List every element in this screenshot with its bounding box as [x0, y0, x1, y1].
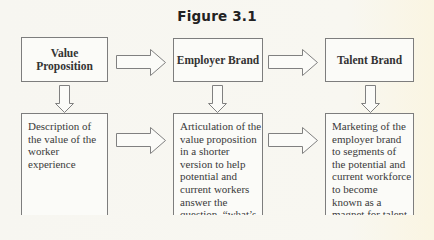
description-line: potential and [180, 170, 257, 183]
description-line: version to help [180, 158, 257, 171]
description-line: question, “what’s [180, 208, 257, 215]
description-line: the potential and [332, 158, 408, 171]
description-line: the value of the [28, 133, 102, 146]
right-arrow-icon [116, 49, 166, 76]
talent-brand-box: Talent Brand [325, 38, 414, 82]
talent-brand-description-box: Marketing of the employer brand to segme… [325, 113, 414, 215]
description-line: in a shorter [180, 145, 257, 158]
description-line: value proposition [180, 133, 257, 146]
value-proposition-box: Value Proposition [21, 37, 108, 82]
employer-brand-box: Employer Brand [173, 38, 263, 82]
description-line: to segments of [332, 145, 408, 158]
description-line: experience [28, 158, 102, 171]
value-proposition-description-box: Description of the value of the worker e… [21, 113, 108, 215]
description-line: known as a [332, 196, 408, 209]
description-line: answer the [180, 196, 257, 209]
right-arrow-icon [268, 127, 318, 154]
right-arrow-icon [268, 49, 318, 76]
down-arrow-icon [55, 85, 74, 113]
description-line: employer brand [332, 133, 408, 146]
description-line: Articulation of the [180, 120, 257, 133]
figure-title: Figure 3.1 [0, 8, 434, 24]
description-line: magnet for talent [332, 208, 408, 215]
description-line: current workers [180, 183, 257, 196]
down-arrow-icon [361, 85, 380, 113]
value-proposition-heading-line-2: Proposition [36, 60, 93, 73]
down-arrow-icon [208, 85, 227, 113]
description-line: to become [332, 183, 408, 196]
employer-brand-heading: Employer Brand [177, 54, 260, 67]
description-line: Marketing of the [332, 120, 408, 133]
description-line: worker [28, 145, 102, 158]
talent-brand-heading: Talent Brand [337, 54, 402, 67]
value-proposition-heading-line-1: Value [36, 47, 93, 60]
description-line: Description of [28, 120, 102, 133]
employer-brand-description-box: Articulation of the value proposition in… [173, 113, 263, 215]
description-line: current workforce [332, 170, 408, 183]
right-arrow-icon [116, 127, 166, 154]
